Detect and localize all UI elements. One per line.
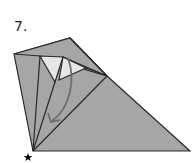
- star-icon: [24, 153, 33, 161]
- origami-diagram: [0, 0, 194, 163]
